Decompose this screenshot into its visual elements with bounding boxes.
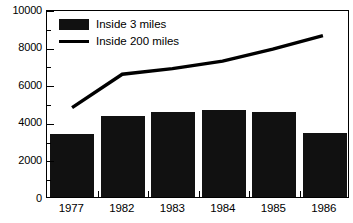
x-axis-tick	[300, 191, 301, 197]
y-axis-minor-tick	[47, 30, 51, 31]
y-axis-labels: 0200040006000800010000	[0, 0, 42, 223]
chart-legend: Inside 3 miles Inside 200 miles	[59, 17, 179, 48]
y-axis-tick-label: 6000	[2, 80, 42, 91]
y-axis-minor-tick	[47, 143, 51, 144]
legend-item-inside-200-miles: Inside 200 miles	[59, 34, 179, 48]
y-axis-tick-label: 4000	[2, 117, 42, 128]
y-axis-tick-label: 2000	[2, 155, 42, 166]
line-swatch-icon	[59, 36, 89, 47]
y-axis-tick-label: 10000	[2, 5, 42, 16]
y-axis-tick-label: 0	[2, 193, 42, 204]
x-axis-tick-label: 1983	[160, 202, 185, 214]
legend-item-inside-3-miles: Inside 3 miles	[59, 17, 179, 31]
x-axis-tick-label: 1977	[59, 202, 84, 214]
y-axis-tick-label: 8000	[2, 42, 42, 53]
x-axis-tick-label: 1986	[311, 202, 336, 214]
y-axis-major-tick	[47, 49, 54, 50]
y-axis-minor-tick	[47, 180, 51, 181]
y-axis-major-tick	[47, 161, 54, 162]
x-axis-tick	[148, 191, 149, 197]
x-axis-tick	[199, 191, 200, 197]
plot-area: Inside 3 miles Inside 200 miles	[46, 10, 349, 198]
y-axis-minor-tick	[47, 105, 51, 106]
y-axis-minor-tick	[47, 67, 51, 68]
x-axis-tick-label: 1982	[109, 202, 134, 214]
y-axis-major-tick	[47, 86, 54, 87]
legend-label-inside-200-miles: Inside 200 miles	[96, 35, 179, 47]
bar-line-chart: 0200040006000800010000 Inside 3 miles In…	[0, 0, 353, 223]
x-axis-tick	[249, 191, 250, 197]
x-axis-tick-label: 1985	[261, 202, 286, 214]
x-axis-tick-label: 1984	[210, 202, 235, 214]
legend-label-inside-3-miles: Inside 3 miles	[96, 18, 166, 30]
y-axis-major-tick	[47, 11, 54, 12]
x-axis-labels: 197719821983198419851986	[46, 200, 349, 220]
x-axis-tick	[98, 191, 99, 197]
bar-swatch-icon	[59, 19, 89, 30]
y-axis-major-tick	[47, 124, 54, 125]
